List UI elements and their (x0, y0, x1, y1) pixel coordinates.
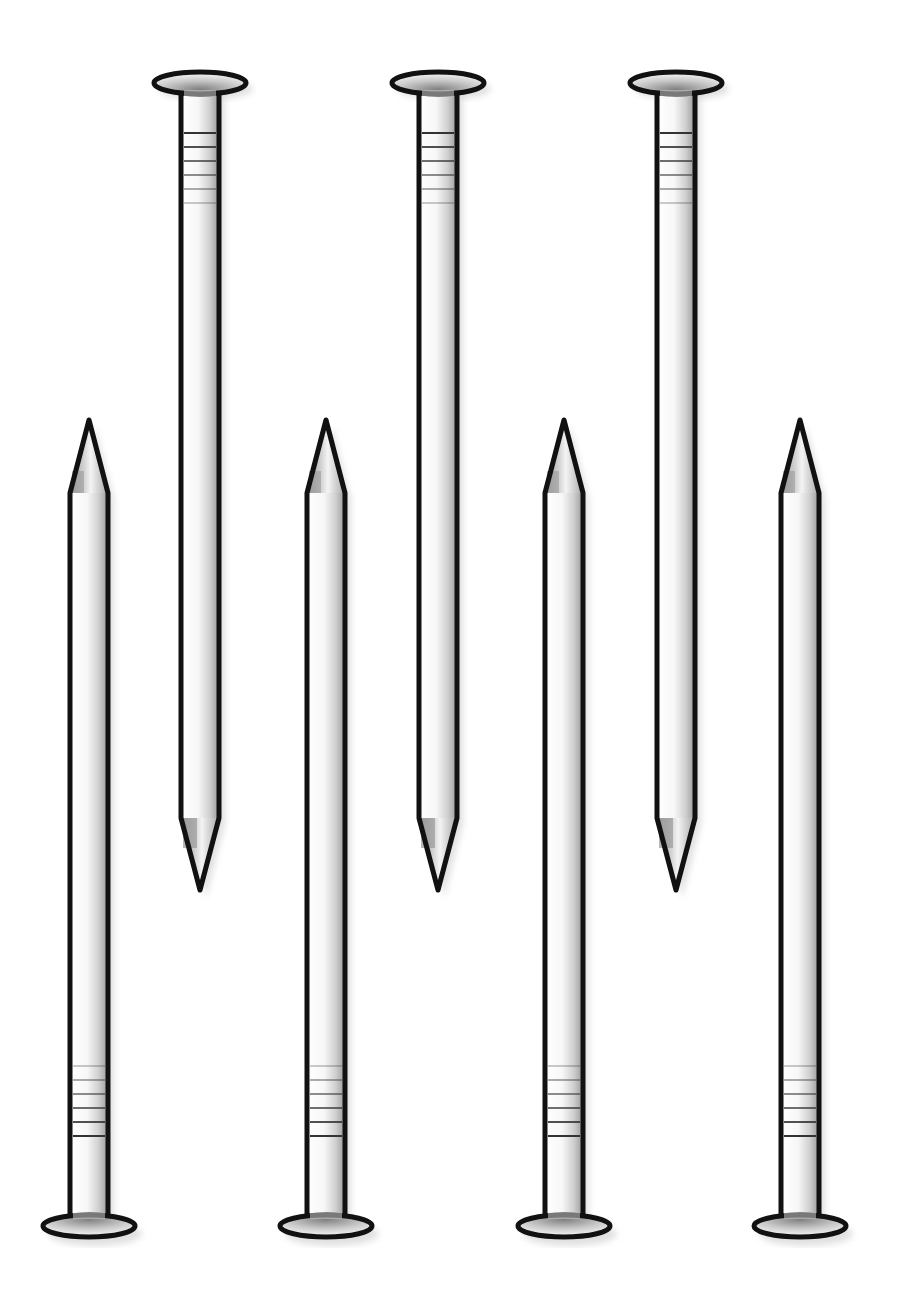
nail (392, 72, 491, 898)
nail (154, 72, 253, 898)
nail (518, 420, 617, 1246)
nail (280, 420, 379, 1246)
nail (43, 420, 142, 1246)
nail (754, 420, 853, 1246)
nail (630, 72, 729, 898)
nails-illustration (0, 0, 897, 1309)
